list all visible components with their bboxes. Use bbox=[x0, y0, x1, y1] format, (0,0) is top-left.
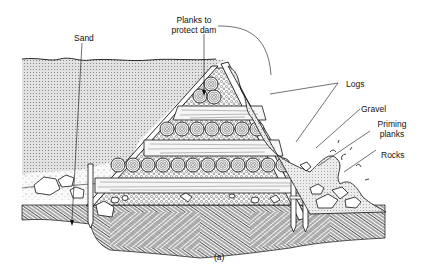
figure-caption: (a) bbox=[214, 252, 224, 262]
label-planks-line2: protect dam bbox=[156, 25, 232, 35]
label-priming-line2: planks bbox=[370, 129, 414, 139]
leader-logs-1 bbox=[270, 83, 338, 94]
label-priming-planks: Priming planks bbox=[370, 119, 414, 139]
arrowhead-sand bbox=[70, 220, 74, 226]
label-planks-line1: Planks to bbox=[156, 15, 232, 25]
label-planks-protect-dam: Planks to protect dam bbox=[156, 15, 232, 35]
leader-logs-2 bbox=[296, 83, 338, 142]
label-priming-line1: Priming bbox=[370, 119, 414, 129]
upstream-stake bbox=[88, 164, 93, 228]
leader-rocks bbox=[344, 150, 376, 172]
label-sand: Sand bbox=[74, 33, 94, 43]
label-logs: Logs bbox=[346, 79, 364, 89]
label-gravel: Gravel bbox=[361, 104, 386, 114]
crib-base-plank bbox=[95, 178, 300, 193]
dam-diagram bbox=[0, 0, 429, 276]
leader-priming bbox=[318, 131, 370, 166]
label-rocks: Rocks bbox=[381, 150, 405, 160]
